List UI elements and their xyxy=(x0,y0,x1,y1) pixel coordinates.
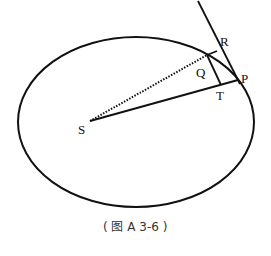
label-r: R xyxy=(220,34,229,49)
label-s: S xyxy=(78,122,85,137)
segment-qr xyxy=(207,51,217,55)
figure-caption: ( 图 A 3-6 ) xyxy=(103,220,167,234)
label-t: T xyxy=(216,88,224,103)
orbit-ellipse xyxy=(18,37,254,207)
kepler-orbit-diagram: S P Q R T ( 图 A 3-6 ) xyxy=(0,0,271,256)
label-p: P xyxy=(241,71,248,86)
label-q: Q xyxy=(196,65,206,80)
segment-qt xyxy=(207,55,221,85)
radius-sq-dotted xyxy=(90,55,207,121)
